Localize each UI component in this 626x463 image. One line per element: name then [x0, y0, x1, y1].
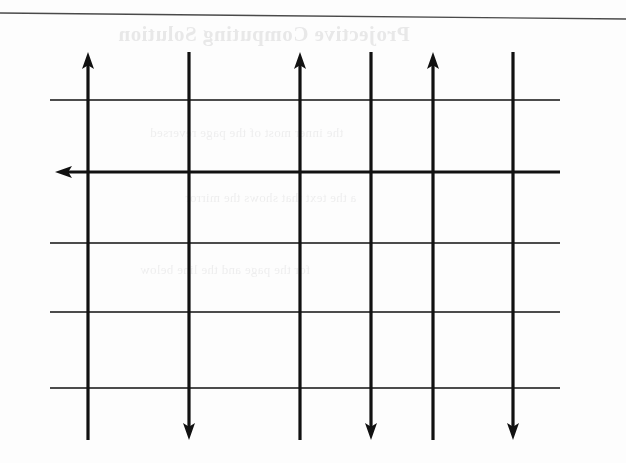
horizontal-lines-group [50, 100, 560, 388]
vertical-lines-group [82, 52, 519, 440]
scanned-page: Projective Computing Solution the inner … [0, 0, 626, 463]
page-edge-rule-line [0, 13, 626, 19]
arrow-grid-diagram [0, 0, 626, 463]
page-edge-rule [0, 13, 626, 19]
